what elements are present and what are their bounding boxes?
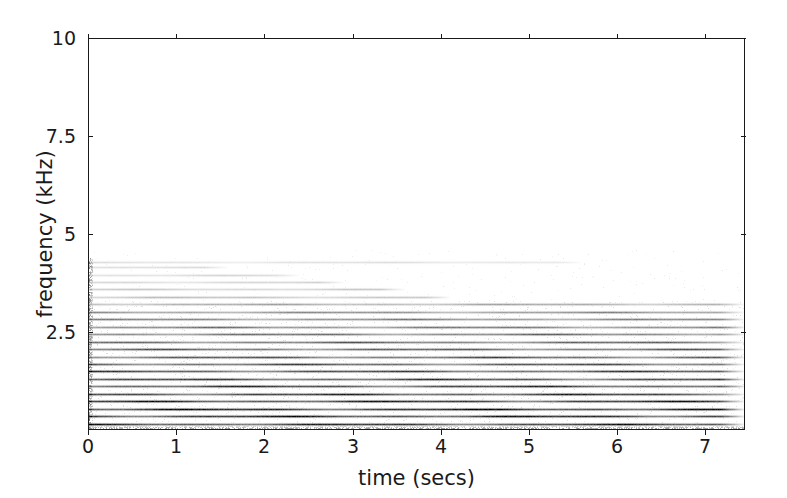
- x-tick-mark: [441, 34, 442, 39]
- plot-area: [88, 38, 745, 430]
- x-tick-mark: [176, 34, 177, 39]
- y-tick-mark: [741, 234, 746, 235]
- spectrogram-figure: 012345672.557.510 time (secs) frequency …: [0, 0, 787, 498]
- spectrogram-image: [89, 39, 745, 430]
- y-tick-mark: [88, 234, 93, 235]
- x-tick-label: 3: [347, 437, 359, 456]
- x-tick-mark: [264, 34, 265, 39]
- x-tick-label: 7: [699, 437, 711, 456]
- y-tick-label: 5: [64, 225, 76, 244]
- x-tick-mark: [617, 34, 618, 39]
- x-tick-label: 6: [611, 437, 623, 456]
- x-tick-label: 5: [523, 437, 535, 456]
- x-tick-mark: [705, 34, 706, 39]
- y-tick-mark: [741, 38, 746, 39]
- y-axis-label: frequency (kHz): [30, 38, 60, 430]
- x-tick-label: 0: [82, 437, 94, 456]
- x-tick-mark: [353, 34, 354, 39]
- y-tick-mark: [88, 38, 93, 39]
- y-tick-mark: [741, 332, 746, 333]
- x-tick-label: 2: [258, 437, 270, 456]
- y-tick-mark: [741, 136, 746, 137]
- x-tick-label: 1: [170, 437, 182, 456]
- y-tick-mark: [88, 136, 93, 137]
- x-tick-mark: [529, 34, 530, 39]
- y-tick-mark: [88, 332, 93, 333]
- x-axis-label: time (secs): [88, 466, 745, 490]
- x-tick-label: 4: [435, 437, 447, 456]
